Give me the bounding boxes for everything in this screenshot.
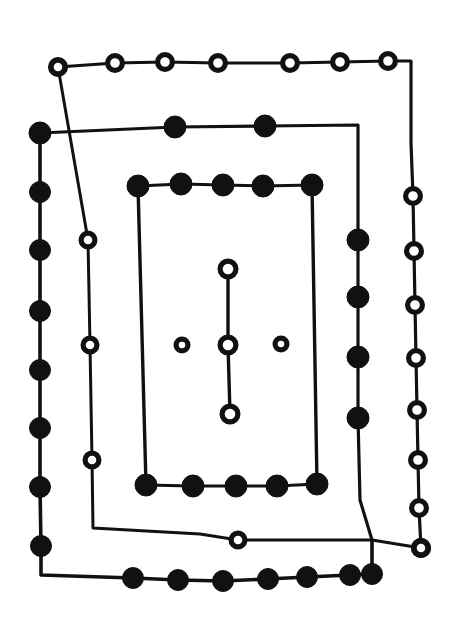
node-open [81, 233, 95, 247]
node-filled [123, 568, 144, 589]
node-filled [301, 174, 323, 196]
node-filled [182, 475, 204, 497]
node-open [176, 339, 188, 351]
node-open [410, 403, 425, 418]
node-open [408, 298, 423, 313]
node-filled [347, 229, 369, 251]
node-open [222, 406, 238, 422]
node-filled [170, 173, 192, 195]
node-open [108, 56, 123, 71]
node-open [51, 60, 65, 74]
node-open [411, 453, 426, 468]
node-filled [362, 564, 383, 585]
node-filled [31, 536, 52, 557]
node-filled [213, 571, 234, 592]
node-open [409, 351, 424, 366]
figure-root [0, 0, 459, 641]
node-filled [29, 122, 51, 144]
node-filled [30, 240, 51, 261]
node-open [283, 56, 298, 71]
node-open [275, 338, 287, 350]
node-filled [127, 175, 149, 197]
node-open [406, 189, 421, 204]
node-filled [258, 569, 279, 590]
node-filled [212, 174, 234, 196]
node-filled [347, 407, 369, 429]
node-open [333, 55, 348, 70]
node-filled [252, 175, 274, 197]
node-filled [30, 360, 51, 381]
node-filled [347, 286, 369, 308]
node-filled [347, 346, 369, 368]
node-filled [254, 115, 276, 137]
node-filled [164, 116, 186, 138]
node-filled [30, 182, 51, 203]
node-filled [30, 477, 51, 498]
node-open [220, 261, 236, 277]
node-open [211, 56, 226, 71]
node-filled [340, 565, 361, 586]
node-filled [135, 474, 157, 496]
node-filled [266, 475, 288, 497]
node-open [83, 338, 97, 352]
node-open [231, 533, 245, 547]
node-open [414, 541, 428, 555]
node-open [381, 54, 396, 69]
node-filled [306, 473, 328, 495]
node-open [412, 501, 427, 516]
node-open [85, 453, 99, 467]
node-filled [168, 570, 189, 591]
node-filled [297, 567, 318, 588]
node-open [158, 55, 173, 70]
node-filled [225, 475, 247, 497]
diagram-canvas [0, 0, 459, 641]
node-filled [30, 418, 51, 439]
node-open [220, 337, 236, 353]
node-filled [30, 301, 51, 322]
node-open [407, 244, 422, 259]
